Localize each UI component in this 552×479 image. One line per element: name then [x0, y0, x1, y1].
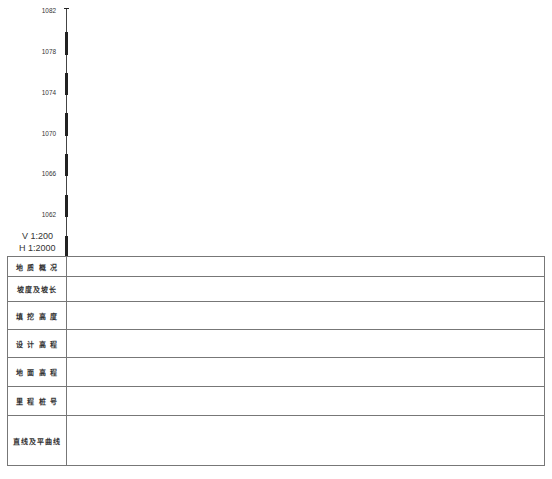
axis-segment	[65, 195, 68, 217]
row-label: 设 计 高 程	[8, 330, 67, 358]
table-row-ground-elevation: 地 面 高 程	[8, 358, 545, 387]
row-label: 填 挖 高 度	[8, 302, 67, 330]
row-label: 坡度及坡长	[8, 277, 67, 302]
axis-segment	[65, 32, 68, 55]
axis-segment	[65, 73, 68, 95]
row-content	[67, 416, 545, 466]
tick-label-1066: 1066	[24, 169, 56, 178]
axis-segment	[65, 236, 68, 257]
table-row-alignment: 直线及平曲线	[8, 416, 545, 466]
table-row-geology: 地 质 概 况	[8, 257, 545, 277]
row-label: 地 质 概 况	[8, 257, 67, 277]
table-row-station: 里 程 桩 号	[8, 387, 545, 416]
tick-label-1062: 1062	[24, 210, 56, 219]
axis-segment	[65, 113, 68, 136]
row-content	[67, 387, 545, 416]
row-label: 地 面 高 程	[8, 358, 67, 387]
table-row-design-elevation: 设 计 高 程	[8, 330, 545, 358]
tick-label-1074: 1074	[24, 88, 56, 97]
row-content	[67, 330, 545, 358]
tick-label-1082: 1082	[24, 6, 56, 15]
elevation-axis	[65, 8, 68, 257]
row-label: 里 程 桩 号	[8, 387, 67, 416]
axis-segment	[65, 154, 68, 176]
axis-tick	[64, 8, 69, 9]
row-content	[67, 277, 545, 302]
row-content	[67, 302, 545, 330]
horizontal-scale-label: H 1:2000	[19, 243, 56, 253]
vertical-scale-label: V 1:200	[22, 231, 53, 241]
row-content	[67, 257, 545, 277]
tick-label-1078: 1078	[24, 47, 56, 56]
profile-table: 地 质 概 况 坡度及坡长 填 挖 高 度 设 计 高 程 地 面 高 程 里 …	[7, 256, 545, 466]
table-row-cut-fill: 填 挖 高 度	[8, 302, 545, 330]
row-label: 直线及平曲线	[8, 416, 67, 466]
tick-label-1070: 1070	[24, 129, 56, 138]
row-content	[67, 358, 545, 387]
table-row-slope: 坡度及坡长	[8, 277, 545, 302]
